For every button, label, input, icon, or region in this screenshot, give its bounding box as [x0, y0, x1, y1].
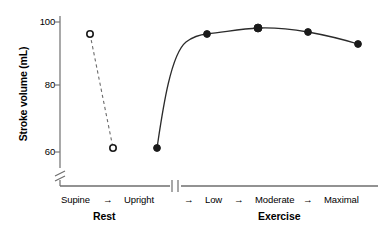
x-label-moderate: Moderate [255, 194, 294, 205]
chart-figure: Stroke volume (mL) 100 80 60 Supine → Up… [0, 0, 391, 236]
x-label-supine: Supine [61, 194, 90, 205]
x-group-label-rest: Rest [93, 210, 115, 222]
data-point-exercise-moderate [254, 24, 262, 32]
data-point-rest-supine [87, 31, 93, 37]
data-point-exercise-low [204, 31, 211, 38]
x-label-low: Low [205, 194, 222, 205]
x-label-upright: Upright [124, 194, 154, 205]
x-arrow-exercise-1: → [234, 194, 243, 205]
data-point-exercise-1 [154, 145, 161, 152]
x-label-maximal: Maximal [324, 194, 359, 205]
data-point-exercise-4 [305, 29, 312, 36]
x-arrow-exercise-0: → [184, 194, 193, 205]
data-point-rest-upright [110, 145, 116, 151]
x-arrow-rest-1: → [103, 194, 112, 205]
x-arrow-exercise-2: → [303, 194, 312, 205]
x-group-label-exercise: Exercise [258, 210, 300, 222]
exercise-series-line [157, 28, 358, 148]
data-point-exercise-maximal [355, 41, 362, 48]
rest-series-line [90, 34, 113, 148]
y-axis-break-mark-upper [55, 171, 65, 176]
